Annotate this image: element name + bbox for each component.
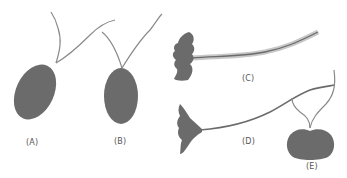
diagram-canvas (0, 0, 347, 178)
cell-b-flagellum-1 (102, 32, 122, 68)
label-c: (C) (242, 74, 254, 83)
cell-e-body (287, 129, 334, 160)
cell-e (287, 70, 335, 160)
cell-a (6, 12, 115, 126)
cell-c-body (173, 32, 194, 81)
cell-a-body (6, 58, 65, 127)
cell-b (102, 14, 162, 124)
cell-b-flagellum-2 (122, 14, 162, 68)
cell-a-flagellum-2 (56, 20, 115, 63)
cell-a-flagellum-1 (51, 12, 60, 63)
cell-c-flagellum (192, 32, 318, 58)
label-d: (D) (242, 137, 255, 146)
cell-d-flagellum (200, 85, 335, 130)
cell-d-body (177, 104, 202, 154)
cell-b-body (104, 68, 138, 124)
cell-e-flagellum-1 (292, 98, 310, 128)
label-e: (E) (306, 162, 318, 171)
cell-e-flagellum-2 (310, 70, 335, 128)
label-b: (B) (114, 137, 126, 146)
label-a: (A) (26, 138, 38, 147)
